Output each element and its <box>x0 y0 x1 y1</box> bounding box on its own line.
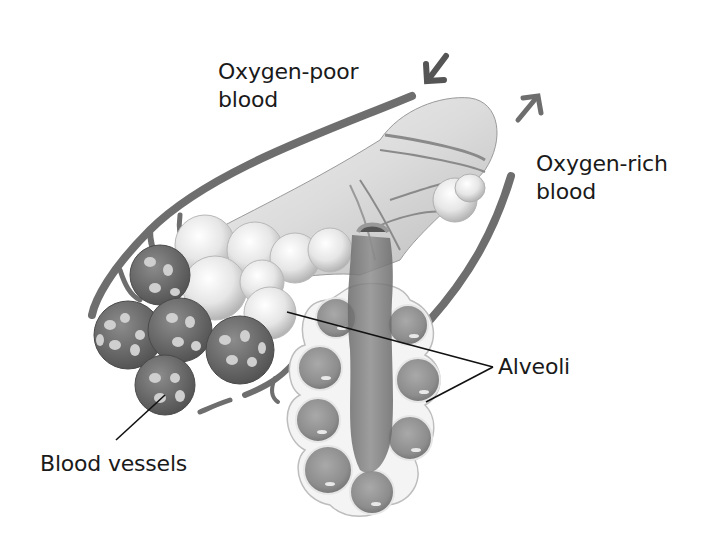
alveoli-diagram: Oxygen-poor blood Oxygen-rich blood Alve… <box>0 0 714 552</box>
label-alveoli: Alveoli <box>498 353 570 381</box>
label-oxygen-poor-blood: Oxygen-poor blood <box>218 58 358 114</box>
label-oxygen-rich-blood: Oxygen-rich blood <box>536 150 668 206</box>
oxygen-poor-arrow-icon <box>426 56 446 81</box>
label-blood-vessels: Blood vessels <box>40 450 187 478</box>
oxygen-rich-arrow-icon <box>518 96 541 120</box>
